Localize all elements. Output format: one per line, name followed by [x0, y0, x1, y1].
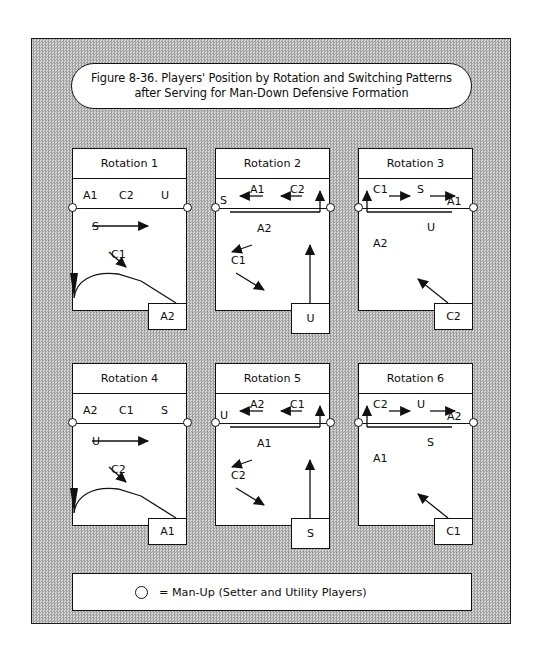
manup-dot-right-rotation-2: [326, 203, 335, 212]
player-label-s: S: [220, 195, 227, 206]
court-rotation-3[interactable]: Rotation 3 C1 S A1 U A2: [358, 148, 473, 311]
player-label-c1: C1: [119, 405, 134, 416]
player-label-a2: A2: [373, 238, 388, 249]
court-title-rotation-2: Rotation 2: [216, 149, 329, 179]
player-label-c1: C1: [111, 249, 126, 260]
manup-dot-left-rotation-5: [211, 418, 220, 427]
player-label-a1: A1: [447, 196, 462, 207]
figure-title-plate: Figure 8-36. Players' Position by Rotati…: [71, 63, 472, 109]
manup-dot-left-rotation-2: [211, 203, 220, 212]
player-label-a2: A2: [447, 411, 462, 422]
player-label-u: U: [161, 190, 169, 201]
figure-title-line-1: Figure 8-36. Players' Position by Rotati…: [91, 71, 452, 86]
player-label-c2: C2: [231, 470, 246, 481]
manup-dot-right-rotation-5: [326, 418, 335, 427]
attack-line-rotation-6: [359, 423, 472, 424]
player-label-c2: C2: [290, 184, 305, 195]
player-label-a1: A1: [257, 438, 272, 449]
player-label-a2: A2: [83, 405, 98, 416]
player-label-s: S: [417, 184, 424, 195]
court-title-rotation-5: Rotation 5: [216, 364, 329, 394]
player-label-c1: C1: [373, 184, 388, 195]
player-label-c2: C2: [373, 399, 388, 410]
manup-dot-right-rotation-3: [469, 203, 478, 212]
court-title-rotation-4: Rotation 4: [73, 364, 186, 394]
player-label-a2: A2: [250, 399, 265, 410]
server-box-rotation-1[interactable]: A2: [148, 303, 187, 330]
player-label-a2: A2: [257, 223, 272, 234]
manup-dot-right-rotation-1: [183, 203, 192, 212]
player-label-s: S: [161, 405, 168, 416]
attack-line-rotation-5: [216, 423, 329, 424]
court-title-rotation-3: Rotation 3: [359, 149, 472, 179]
player-label-a1: A1: [250, 184, 265, 195]
attack-line-rotation-4: [73, 423, 186, 424]
player-label-a1: A1: [373, 453, 388, 464]
player-label-s: S: [427, 437, 434, 448]
attack-line-rotation-3: [359, 208, 472, 209]
figure-title-line-2: after Serving for Man-Down Defensive For…: [134, 86, 408, 101]
player-label-a1: A1: [83, 190, 98, 201]
court-rotation-2[interactable]: Rotation 2 S A1 C2 A2 C1: [215, 148, 330, 311]
player-label-u: U: [220, 410, 228, 421]
court-rotation-4[interactable]: Rotation 4 A2 C1 S U C2: [72, 363, 187, 526]
player-label-c2: C2: [111, 464, 126, 475]
server-box-rotation-4[interactable]: A1: [148, 518, 187, 545]
player-label-u: U: [417, 399, 425, 410]
legend-label: = Man-Up (Setter and Utility Players): [159, 586, 367, 599]
court-title-rotation-6: Rotation 6: [359, 364, 472, 394]
player-label-s: S: [92, 221, 99, 232]
attack-line-rotation-1: [73, 208, 186, 209]
court-rotation-5[interactable]: Rotation 5 U A2 C1 A1 C2: [215, 363, 330, 526]
manup-dot-left-rotation-6: [354, 418, 363, 427]
legend-box: = Man-Up (Setter and Utility Players): [72, 573, 472, 611]
server-box-rotation-6[interactable]: C1: [434, 518, 473, 545]
player-label-u: U: [427, 222, 435, 233]
manup-dot-left-rotation-3: [354, 203, 363, 212]
player-label-c2: C2: [119, 190, 134, 201]
player-label-u: U: [92, 436, 100, 447]
player-label-c1: C1: [231, 255, 246, 266]
figure-root: Figure 8-36. Players' Position by Rotati…: [0, 0, 542, 657]
server-box-rotation-3[interactable]: C2: [434, 303, 473, 330]
player-label-c1: C1: [290, 399, 305, 410]
manup-dot-right-rotation-4: [183, 418, 192, 427]
manup-dot-right-rotation-6: [469, 418, 478, 427]
manup-dot-left-rotation-4: [68, 418, 77, 427]
court-rotation-1[interactable]: Rotation 1 A1 C2 U S C1: [72, 148, 187, 311]
server-box-rotation-2[interactable]: U: [291, 303, 330, 334]
server-box-rotation-5[interactable]: S: [291, 518, 330, 549]
court-rotation-6[interactable]: Rotation 6 C2 U A2 S A1: [358, 363, 473, 526]
manup-circle-icon: [135, 586, 148, 599]
attack-line-rotation-2: [216, 208, 329, 209]
manup-dot-left-rotation-1: [68, 203, 77, 212]
court-title-rotation-1: Rotation 1: [73, 149, 186, 179]
